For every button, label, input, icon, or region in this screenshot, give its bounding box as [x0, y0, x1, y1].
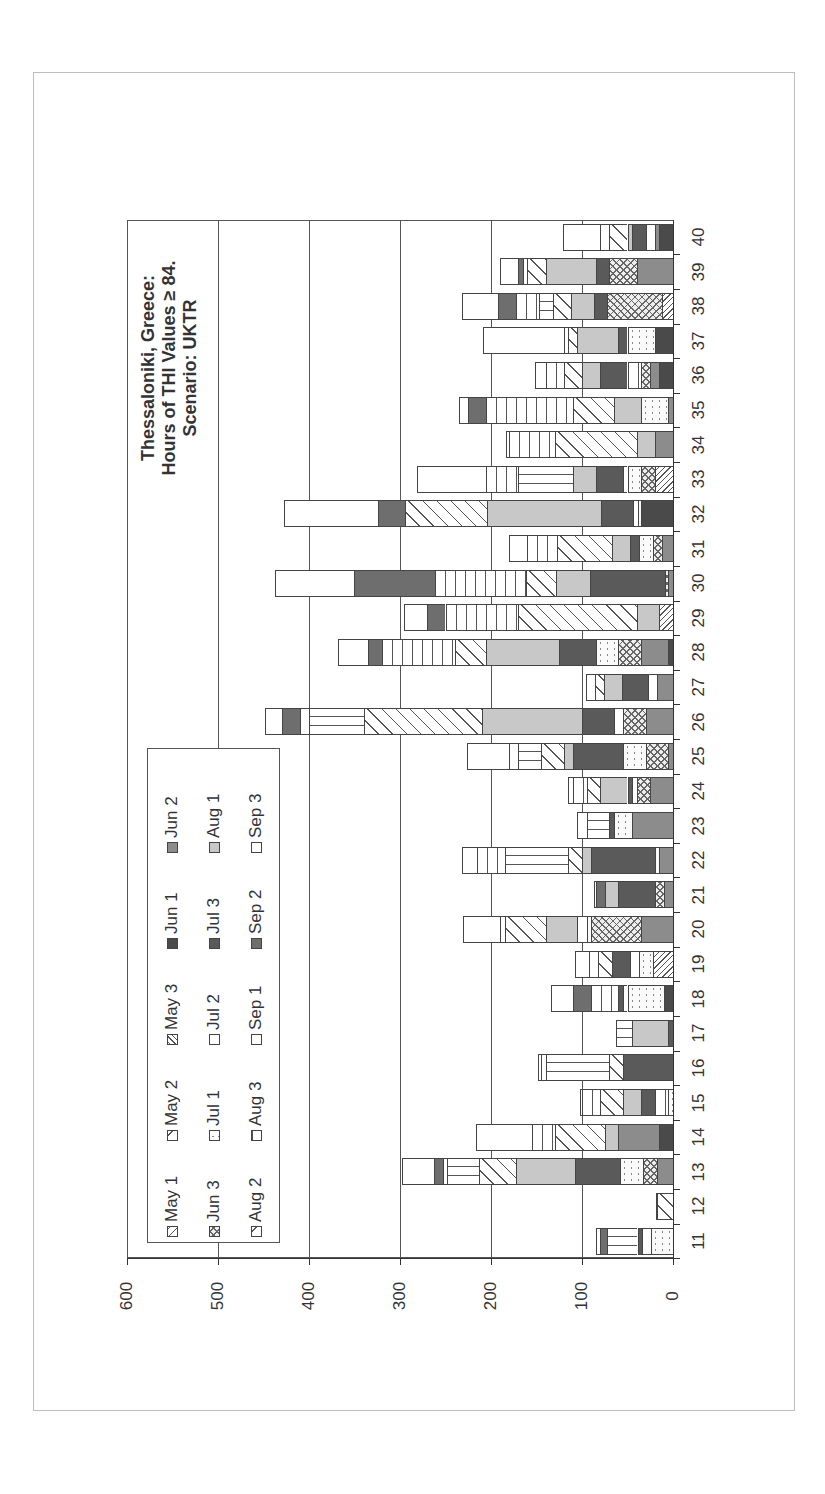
- legend-label: Jul 1: [204, 1090, 224, 1126]
- segment-sep-2: [518, 258, 523, 285]
- legend-swatch: [251, 938, 262, 949]
- title-line-1: Thessaloniki, Greece:: [138, 238, 159, 498]
- category-tick: [673, 289, 680, 290]
- segment-aug-2: [564, 362, 582, 389]
- bar-35: [0, 397, 825, 424]
- segment-jun-3: [665, 570, 669, 597]
- bar-12: [0, 1193, 825, 1220]
- bar-13: [0, 1158, 825, 1185]
- segment-jul-2: [623, 466, 628, 493]
- legend-label: Sep 2: [246, 890, 266, 934]
- legend-item-sep-3: Sep 3: [246, 794, 266, 853]
- segment-jul-1: [639, 535, 653, 562]
- segment-jul-2: [646, 224, 655, 251]
- legend-item-may-3: May 3: [162, 984, 182, 1045]
- category-tick: [673, 324, 680, 325]
- value-tick-label: 400: [299, 1276, 319, 1316]
- segment-jun-2: [662, 535, 673, 562]
- bar-36: [0, 362, 825, 389]
- segment-jul-2: [632, 777, 637, 804]
- segment-sep-1: [564, 327, 569, 354]
- segment-aug-1: [612, 535, 630, 562]
- segment-aug-1: [486, 639, 559, 666]
- segment-sep-3: [551, 985, 573, 1012]
- segment-jun-2: [657, 1158, 673, 1185]
- segment-sep-1: [582, 1089, 600, 1116]
- category-tick: [673, 670, 680, 671]
- segment-aug-1: [604, 674, 622, 701]
- segment-sep-3: [656, 1193, 657, 1220]
- segment-jun-3: [653, 535, 662, 562]
- segment-jul-2: [633, 500, 638, 527]
- bar-20: [0, 916, 825, 943]
- value-tick: [400, 1258, 401, 1265]
- segment-sep-3: [463, 916, 500, 943]
- legend-swatch: [167, 1226, 178, 1237]
- legend-swatch: [251, 1130, 262, 1141]
- segment-sep-3: [594, 881, 596, 908]
- segment-aug-1: [605, 1124, 619, 1151]
- segment-sep-3: [535, 362, 546, 389]
- segment-jul-1: [641, 397, 668, 424]
- category-tick: [673, 254, 680, 255]
- legend: May 1May 2May 3Jun 1Jun 2Jun 3Jul 1Jul 2…: [147, 748, 280, 1243]
- legend-item-jul-2: Jul 2: [204, 994, 224, 1045]
- segment-aug-1: [571, 293, 594, 320]
- segment-sep-3: [563, 224, 600, 251]
- value-axis: [127, 1258, 675, 1259]
- segment-jul-3: [590, 570, 665, 597]
- category-tick: [673, 981, 680, 982]
- segment-jul-3: [638, 1228, 643, 1255]
- legend-swatch: [209, 1130, 220, 1141]
- segment-aug-1: [546, 916, 578, 943]
- bar-25: [0, 743, 825, 770]
- legend-swatch: [209, 1226, 220, 1237]
- segment-jul-1: [638, 500, 642, 527]
- value-tick: [309, 1258, 310, 1265]
- segment-jul-3: [612, 951, 630, 978]
- segment-sep-3: [462, 293, 498, 320]
- segment-jul-2: [628, 362, 642, 389]
- segment-sep-1: [546, 362, 564, 389]
- segment-jul-2: [648, 674, 657, 701]
- bar-26: [0, 708, 825, 735]
- segment-jul-2: [623, 985, 628, 1012]
- segment-sep-2: [468, 397, 486, 424]
- segment-aug-2: [557, 535, 612, 562]
- legend-label: Jun 1: [162, 892, 182, 934]
- segment-jun-2: [664, 881, 673, 908]
- segment-jun-1: [659, 1124, 673, 1151]
- segment-jul-1: [623, 743, 646, 770]
- segment-jun-3: [607, 293, 662, 320]
- segment-jun-3: [637, 777, 651, 804]
- segment-jul-3: [591, 847, 655, 874]
- bar-14: [0, 1124, 825, 1151]
- segment-aug-2: [600, 1089, 623, 1116]
- bar-24: [0, 777, 825, 804]
- segment-aug-2: [555, 431, 637, 458]
- legend-label: May 3: [162, 984, 182, 1030]
- segment-aug-1: [482, 708, 582, 735]
- value-tick-label: 300: [390, 1276, 410, 1316]
- value-tick-label: 500: [208, 1276, 228, 1316]
- bar-37: [0, 327, 825, 354]
- bar-33: [0, 466, 825, 493]
- legend-label: Jul 2: [204, 994, 224, 1030]
- category-tick: [673, 1051, 680, 1052]
- segment-aug-2: [609, 1054, 623, 1081]
- segment-aug-1: [573, 466, 596, 493]
- bar-32: [0, 500, 825, 527]
- bar-38: [0, 293, 825, 320]
- legend-label: Sep 3: [246, 794, 266, 838]
- segment-sep-2: [573, 985, 591, 1012]
- segment-jul-1: [628, 985, 664, 1012]
- segment-sep-1: [589, 951, 598, 978]
- segment-aug-1: [516, 1158, 575, 1185]
- legend-swatch: [167, 938, 178, 949]
- segment-aug-2: [587, 777, 601, 804]
- bar-31: [0, 535, 825, 562]
- title-line-2: Hours of THI Values ≥ 84.: [159, 238, 180, 498]
- segment-aug-3: [518, 466, 573, 493]
- segment-sep-3: [538, 1054, 541, 1081]
- category-tick: [673, 808, 680, 809]
